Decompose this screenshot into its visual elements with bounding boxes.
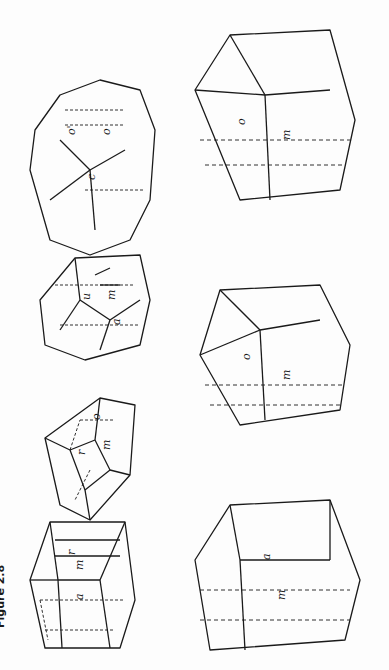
label-c4-c: c	[85, 174, 98, 180]
label-c3-a: a	[110, 318, 123, 325]
label-c5-m: m	[275, 590, 288, 600]
label-c1-r: r	[65, 549, 78, 555]
label-c1-m: m	[73, 560, 86, 570]
label-c2-m: m	[100, 440, 113, 450]
crystal-drawings: r a m r m o u m a o' o c a m o m o m	[0, 0, 389, 670]
label-c4-o-prime: o'	[65, 125, 78, 135]
crystal-5	[195, 500, 360, 650]
label-c2-r: r	[75, 449, 88, 455]
crystal-4	[30, 80, 155, 255]
crystal-3	[40, 255, 150, 360]
label-c3-u: u	[80, 293, 93, 300]
label-c5-a: a	[260, 553, 273, 560]
figure-caption: Figure 2.8	[0, 565, 7, 628]
label-c4-o: o	[100, 128, 113, 135]
label-c3-m: m	[105, 290, 118, 300]
label-c6-o: o	[240, 353, 253, 360]
label-c6-m: m	[280, 370, 293, 380]
crystal-7	[195, 30, 355, 200]
label-c1-a: a	[73, 593, 86, 600]
label-c7-o: o	[235, 118, 248, 125]
crystal-6	[200, 285, 350, 425]
label-c2-o: o	[90, 413, 103, 420]
face-labels: r a m r m o u m a o' o c a m o m o m	[65, 118, 293, 600]
figure-page: r a m r m o u m a o' o c a m o m o m Fig…	[0, 0, 389, 670]
label-c7-m: m	[280, 130, 293, 140]
crystal-1	[30, 522, 135, 648]
